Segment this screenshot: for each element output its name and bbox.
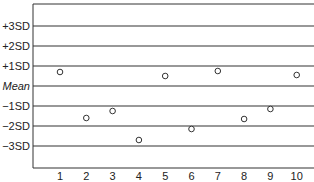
y-axis-label: +2SD <box>2 40 30 52</box>
x-axis-tick-labels: 12345678910 <box>57 170 303 182</box>
sd-control-chart: +3SD+2SD+1SDMean−1SD−2SD−3SD 12345678910 <box>0 0 314 182</box>
data-point-marker <box>241 116 247 122</box>
x-tick-label: 9 <box>267 170 273 182</box>
data-point-marker <box>162 73 168 79</box>
data-point-marker <box>268 106 274 112</box>
data-point-marker <box>189 126 195 132</box>
x-tick-label: 1 <box>57 170 63 182</box>
data-point-marker <box>110 108 116 114</box>
y-axis-label: +3SD <box>2 20 30 32</box>
data-point-marker <box>57 69 63 75</box>
x-tick-label: 2 <box>83 170 89 182</box>
data-point-marker <box>215 68 221 74</box>
data-point-marker <box>136 137 142 143</box>
y-axis-label: −3SD <box>2 140 30 152</box>
y-axis-label: +1SD <box>2 60 30 72</box>
x-tick-label: 8 <box>241 170 247 182</box>
x-tick-label: 7 <box>215 170 221 182</box>
y-axis-label: −2SD <box>2 120 30 132</box>
data-point-marker <box>294 72 300 78</box>
y-axis-label: Mean <box>2 80 30 92</box>
x-tick-label: 6 <box>188 170 194 182</box>
x-tick-label: 4 <box>136 170 142 182</box>
data-point-marker <box>84 115 90 121</box>
x-tick-label: 10 <box>291 170 303 182</box>
y-axis-label: −1SD <box>2 100 30 112</box>
x-tick-label: 5 <box>162 170 168 182</box>
sd-reference-lines <box>33 26 314 146</box>
y-axis-labels: +3SD+2SD+1SDMean−1SD−2SD−3SD <box>2 20 30 152</box>
x-tick-label: 3 <box>110 170 116 182</box>
